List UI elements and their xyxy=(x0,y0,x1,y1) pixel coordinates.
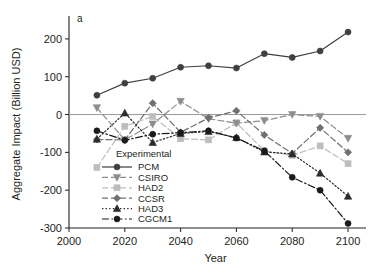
y-tick-label: -200 xyxy=(40,184,62,196)
aggregate-impact-line-chart: 2001000-100-200-300200020202040206020802… xyxy=(0,0,377,276)
legend-item-cgcm1: CGCM1 xyxy=(102,213,172,224)
data-point-ccsr xyxy=(233,107,240,114)
data-point-cgcm1 xyxy=(261,148,267,154)
x-tick-label: 2020 xyxy=(113,235,137,247)
series-csiro xyxy=(93,98,352,143)
x-tick-label: 2060 xyxy=(224,235,248,247)
series-pcm xyxy=(94,29,351,98)
data-point-pcm xyxy=(122,80,128,86)
data-point-had2 xyxy=(206,137,212,143)
legend-item-ccsr: CCSR xyxy=(102,193,165,204)
x-tick-label: 2100 xyxy=(336,235,360,247)
legend-label-ccsr: CCSR xyxy=(138,193,165,204)
data-point-had2 xyxy=(317,143,323,149)
data-point-had2 xyxy=(122,123,128,129)
x-tick-label: 2080 xyxy=(280,235,304,247)
legend-marker-cgcm1 xyxy=(114,216,120,222)
data-point-pcm xyxy=(178,64,184,70)
data-point-pcm xyxy=(289,54,295,60)
x-tick-label: 2000 xyxy=(57,235,81,247)
legend-label-had3: HAD3 xyxy=(138,203,163,214)
panel-label: a xyxy=(77,13,83,24)
y-tick-label: 0 xyxy=(56,109,62,121)
x-axis-title: Year xyxy=(204,252,227,264)
figure-panel: 2001000-100-200-300200020202040206020802… xyxy=(0,0,377,276)
legend-label-had2: HAD2 xyxy=(138,182,163,193)
series-line-pcm xyxy=(97,32,348,95)
data-point-cgcm1 xyxy=(345,220,351,226)
legend-item-csiro: CSIRO xyxy=(102,172,168,183)
data-point-cgcm1 xyxy=(122,137,128,143)
legend-item-had2: HAD2 xyxy=(102,182,163,193)
data-point-pcm xyxy=(345,29,351,35)
data-point-pcm xyxy=(94,92,100,98)
data-point-pcm xyxy=(261,51,267,57)
series-line-ccsr xyxy=(97,103,348,153)
series-had2 xyxy=(94,113,351,170)
data-point-pcm xyxy=(206,63,212,69)
data-point-had2 xyxy=(150,113,156,119)
legend-item-pcm: PCM xyxy=(102,161,159,172)
data-point-csiro xyxy=(149,121,156,128)
legend: ExperimentalPCMCSIROHAD2CCSRHAD3CGCM1 xyxy=(102,148,172,224)
series-line-cgcm1 xyxy=(97,131,348,224)
legend-marker-ccsr xyxy=(113,195,120,202)
legend-label-csiro: CSIRO xyxy=(138,172,168,183)
data-point-cgcm1 xyxy=(317,187,323,193)
data-point-had3 xyxy=(316,169,323,176)
data-point-had2 xyxy=(345,161,351,167)
data-point-pcm xyxy=(317,48,323,54)
legend-marker-had3 xyxy=(113,205,120,212)
legend-item-had3: HAD3 xyxy=(102,203,163,214)
x-tick-label: 2040 xyxy=(168,235,192,247)
data-point-pcm xyxy=(150,75,156,81)
data-point-cgcm1 xyxy=(289,174,295,180)
data-point-csiro xyxy=(344,135,351,142)
data-point-cgcm1 xyxy=(94,128,100,134)
legend-label-pcm: PCM xyxy=(138,161,159,172)
data-point-had2 xyxy=(94,164,100,170)
data-point-cgcm1 xyxy=(150,131,156,137)
data-point-cgcm1 xyxy=(233,135,239,141)
data-point-csiro xyxy=(177,98,184,105)
data-point-had3 xyxy=(121,109,128,116)
legend-marker-pcm xyxy=(114,164,120,170)
legend-marker-had2 xyxy=(114,185,120,191)
data-point-cgcm1 xyxy=(206,128,212,134)
data-point-cgcm1 xyxy=(178,130,184,136)
data-point-had3 xyxy=(344,192,351,199)
y-tick-label: -300 xyxy=(40,222,62,234)
data-point-csiro xyxy=(261,118,268,125)
y-tick-label: 200 xyxy=(44,33,62,45)
legend-label-cgcm1: CGCM1 xyxy=(138,213,172,224)
legend-title: Experimental xyxy=(116,148,171,159)
y-axis-title: Aggregate Impact (Billion USD) xyxy=(10,48,22,201)
series-line-had2 xyxy=(97,116,348,167)
y-tick-label: 100 xyxy=(44,71,62,83)
series-cgcm1 xyxy=(94,128,351,227)
data-point-pcm xyxy=(233,65,239,71)
y-tick-label: -100 xyxy=(40,146,62,158)
